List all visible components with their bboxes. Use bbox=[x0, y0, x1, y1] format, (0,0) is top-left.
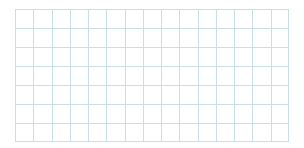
grid-lines bbox=[15, 9, 289, 142]
canvas bbox=[0, 0, 304, 148]
grid bbox=[15, 9, 289, 142]
